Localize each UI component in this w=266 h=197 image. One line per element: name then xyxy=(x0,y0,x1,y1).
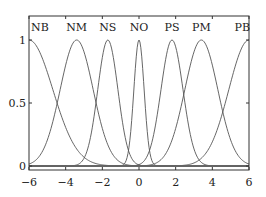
set-label-pb: PB xyxy=(235,21,251,34)
curve-pb xyxy=(29,40,249,166)
x-tick-label: −2 xyxy=(94,176,110,189)
x-tick-label: −4 xyxy=(58,176,74,189)
curve-ps xyxy=(29,40,249,166)
set-label-ps: PS xyxy=(165,21,180,34)
curve-no xyxy=(29,40,249,166)
curve-nm xyxy=(29,40,249,166)
y-tick-label: 0 xyxy=(19,160,26,173)
x-tick-label: −6 xyxy=(21,176,37,189)
set-label-nb: NB xyxy=(31,21,49,34)
set-label-ns: NS xyxy=(99,21,116,34)
y-tick-label: 1 xyxy=(19,34,26,47)
set-label-pm: PM xyxy=(192,21,211,34)
x-tick-label: 2 xyxy=(172,176,179,189)
set-label-nm: NM xyxy=(66,21,87,34)
x-tick-label: 0 xyxy=(136,176,143,189)
membership-function-plot: −6−4−20246 00.51 NBNMNSNOPSPMPB xyxy=(0,0,266,197)
curve-pm xyxy=(29,40,249,166)
curve-ns xyxy=(29,40,249,166)
x-tick-label: 6 xyxy=(246,176,253,189)
x-axis-ticks: −6−4−20246 xyxy=(21,16,253,189)
fuzzy-set-labels: NBNMNSNOPSPMPB xyxy=(31,21,250,34)
set-label-no: NO xyxy=(130,21,149,34)
curve-nb xyxy=(29,40,249,166)
y-tick-label: 0.5 xyxy=(9,97,27,110)
membership-curves xyxy=(29,40,249,166)
x-tick-label: 4 xyxy=(209,176,216,189)
